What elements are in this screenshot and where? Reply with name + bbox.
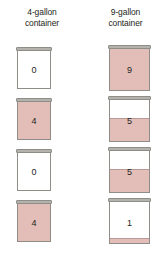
container-9gal-step0: 9	[108, 45, 151, 91]
container-body: 4	[17, 102, 51, 140]
water-fill	[110, 238, 149, 243]
container-4gal-step2: 0	[16, 149, 52, 191]
container-amount-label: 5	[110, 116, 149, 126]
container-amount-label: 4	[18, 218, 50, 228]
container-amount-label: 4	[18, 116, 50, 126]
column-header-9-gallon-line2: container	[84, 18, 167, 29]
column-header-4-gallon: 4-gallon container	[0, 7, 84, 28]
column-header-9-gallon: 9-gallon container	[84, 7, 167, 28]
container-amount-label: 0	[18, 65, 50, 75]
container-body: 4	[17, 204, 51, 242]
container-4gal-step3: 4	[16, 200, 52, 242]
container-body: 0	[17, 51, 51, 89]
column-header-4-gallon-line2: container	[0, 18, 84, 29]
container-9gal-step2: 5	[108, 147, 151, 193]
column-header-4-gallon-line1: 4-gallon	[0, 7, 84, 18]
container-amount-label: 0	[18, 167, 50, 177]
container-4gal-step1: 4	[16, 98, 52, 140]
container-body: 0	[17, 153, 51, 191]
container-body: 1	[109, 202, 150, 244]
water-jug-diagram: 4-gallon container 9-gallon container 0 …	[0, 0, 167, 253]
container-amount-label: 5	[110, 167, 149, 177]
container-body: 9	[109, 49, 150, 91]
container-9gal-step1: 5	[108, 96, 151, 142]
container-amount-label: 1	[110, 218, 149, 228]
container-amount-label: 9	[110, 65, 149, 75]
container-4gal-step0: 0	[16, 47, 52, 89]
container-body: 5	[109, 100, 150, 142]
container-body: 5	[109, 151, 150, 193]
container-9gal-step3: 1	[108, 198, 151, 244]
column-header-9-gallon-line1: 9-gallon	[84, 7, 167, 18]
